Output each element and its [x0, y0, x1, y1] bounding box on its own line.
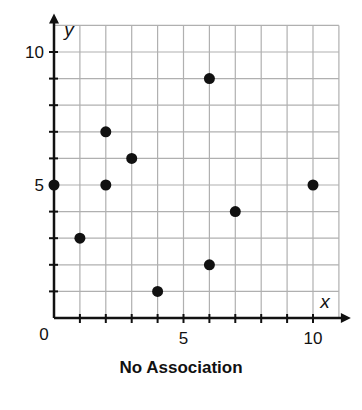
x-axis-arrow-icon	[341, 313, 351, 323]
data-point	[204, 73, 215, 84]
y-tick-label: 5	[35, 176, 44, 195]
chart-title: No Association	[0, 358, 362, 378]
y-axis-label: y	[62, 19, 75, 40]
data-point	[49, 180, 60, 191]
data-point	[100, 126, 111, 137]
data-point	[74, 233, 85, 244]
x-tick-label: 10	[304, 329, 323, 348]
data-point	[100, 180, 111, 191]
y-axis-arrow-icon	[49, 13, 59, 23]
x-axis-label: x	[319, 291, 331, 312]
data-point	[152, 286, 163, 297]
data-point	[126, 153, 137, 164]
y-tick-label: 10	[25, 43, 44, 62]
x-tick-label: 5	[179, 329, 188, 348]
scatter-plot: 0510510xy	[0, 0, 362, 410]
data-point	[308, 180, 319, 191]
origin-label: 0	[39, 325, 48, 344]
tick-labels: 0510510xy	[25, 19, 331, 348]
axes	[49, 13, 351, 323]
grid-lines	[54, 25, 339, 318]
data-point	[230, 206, 241, 217]
data-point	[204, 259, 215, 270]
